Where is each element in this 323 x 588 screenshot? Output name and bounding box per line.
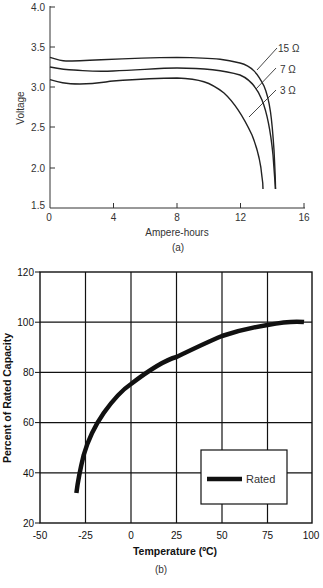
- x-tick-label: 12: [235, 212, 247, 223]
- x-tick-label: 0: [128, 530, 134, 541]
- x-tick-label: -50: [33, 530, 48, 541]
- caption-b: (b): [155, 564, 167, 575]
- x-axis-title: Ampere-hours: [145, 227, 208, 238]
- y-tick-label: 120: [17, 267, 34, 278]
- x-axis-title: Temperature (ºC): [133, 545, 217, 557]
- curve-3-ohm: [50, 78, 263, 189]
- curve-15-ohm: [50, 57, 276, 189]
- x-tick-label: 0: [46, 212, 52, 223]
- x-tick-label: 100: [303, 530, 320, 541]
- label-15-ohm: 15 Ω: [278, 43, 300, 54]
- y-axis-title: Percent of Rated Capacity: [1, 333, 13, 463]
- x-tick-label: 4: [111, 212, 117, 223]
- chart-a: 4.0 3.5 3.0 2.5 2.0 1.5 0 4 8 12 16 Ampe…: [15, 2, 310, 253]
- y-tick-label: 4.0: [31, 2, 45, 13]
- label-3-ohm: 3 Ω: [280, 85, 296, 96]
- legend: Rated: [201, 450, 287, 504]
- y-axis-title: Voltage: [15, 91, 26, 125]
- y-tick-label: 80: [23, 367, 35, 378]
- y-tick-label: 20: [23, 518, 35, 529]
- y-tick-label: 3.5: [31, 42, 45, 53]
- y-tick-label: 40: [23, 468, 35, 479]
- leader-15: [257, 48, 277, 70]
- x-tick-label: 25: [171, 530, 183, 541]
- caption-a: (a): [172, 242, 184, 253]
- figure: 4.0 3.5 3.0 2.5 2.0 1.5 0 4 8 12 16 Ampe…: [0, 0, 323, 588]
- legend-label: Rated: [246, 473, 275, 485]
- y-tick-label: 60: [23, 417, 35, 428]
- x-tick-label: -25: [78, 530, 93, 541]
- chart-b: 120 100 80 60 40 20 -50 -25 0 25 50 75 1…: [1, 267, 320, 575]
- y-tick-label: 2.5: [31, 122, 45, 133]
- y-tick-label: 100: [17, 317, 34, 328]
- y-tick-label: 3.0: [31, 82, 45, 93]
- x-tick-label: 8: [174, 212, 180, 223]
- x-tick-label: 75: [262, 530, 274, 541]
- curve-7-ohm: [50, 67, 276, 189]
- y-tick-label: 2.0: [31, 163, 45, 174]
- label-7-ohm: 7 Ω: [280, 64, 296, 75]
- leader-3: [249, 90, 276, 117]
- y-tick-label: 1.5: [31, 200, 45, 211]
- leader-7: [256, 68, 276, 89]
- x-tick-label: 16: [298, 212, 310, 223]
- x-tick-label: 50: [216, 530, 228, 541]
